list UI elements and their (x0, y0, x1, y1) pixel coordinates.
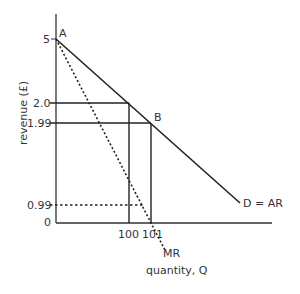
tick-label-101: 101 (142, 228, 163, 241)
x-axis-label: quantity, Q (146, 264, 208, 277)
tick-label-199: 1.99 (27, 117, 52, 130)
tick-label-0: 0 (44, 216, 51, 229)
tick-label-099: 0.99 (27, 199, 52, 212)
point-b-label: B (154, 111, 162, 124)
demand-curve (56, 39, 240, 203)
tick-label-2: 2.0 (33, 97, 51, 110)
revenue-diagram: A B D = AR MR quantity, Q revenue (£) 5 … (0, 0, 300, 294)
demand-curve-label: D = AR (243, 197, 283, 210)
y-axis-label: revenue (£) (17, 81, 30, 145)
point-a-label: A (59, 27, 67, 40)
mr-curve-label: MR (163, 247, 180, 260)
tick-label-5: 5 (43, 33, 50, 46)
mr-curve (56, 39, 166, 252)
tick-label-100: 100 (118, 228, 139, 241)
